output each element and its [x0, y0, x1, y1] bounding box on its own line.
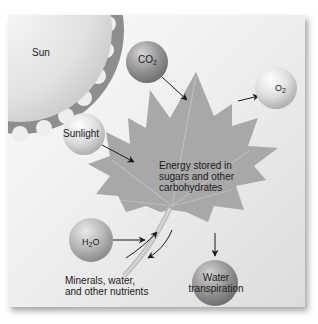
sunlight-label: Sunlight [63, 128, 99, 139]
o2-arrow [238, 96, 259, 101]
leaf-energy-label: Energy stored in sugars and other carboh… [159, 160, 234, 193]
sun-icon [0, 0, 124, 142]
sun-label: Sun [32, 47, 50, 58]
o2-label: O2 [275, 83, 286, 94]
minerals-label: Minerals, water, and other nutrients [65, 275, 148, 297]
h2o-label: H2O [82, 237, 99, 248]
transpiration-label: Water transpiration [183, 272, 249, 294]
co2-arrow [162, 77, 187, 100]
co2-label: CO2 [138, 54, 157, 65]
